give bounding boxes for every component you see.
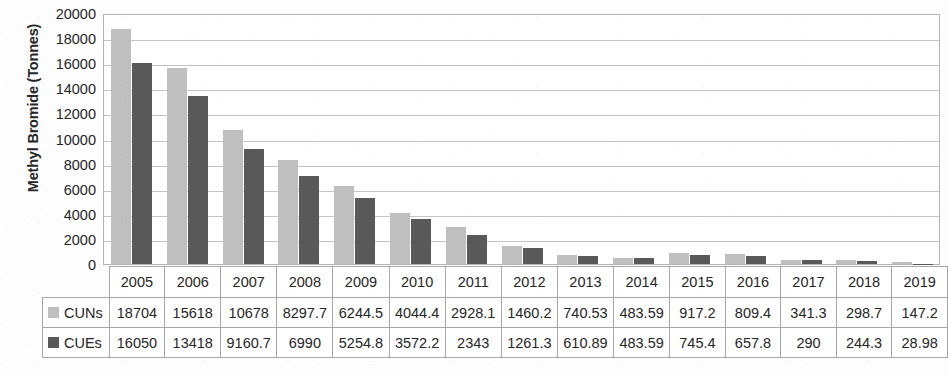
table-row: CUNs 1870415618106788297.76244.54044.429… xyxy=(43,298,948,328)
bar-group xyxy=(160,15,216,264)
table-cell-cuns-2019: 147.2 xyxy=(892,298,948,328)
bar-chart-figure: Methyl Bromide (Tonnes) 2000018000160001… xyxy=(0,0,948,377)
bar-cuns-2011 xyxy=(446,227,466,264)
bar-group xyxy=(495,15,551,264)
table-header-year: 2015 xyxy=(670,267,726,298)
table-row-years: 2005200620072008200920102011201220132014… xyxy=(43,267,948,298)
table-cell-cues-2009: 5254.8 xyxy=(333,328,389,358)
bar-cues-2015 xyxy=(690,255,710,264)
table-cell-cues-2015: 745.4 xyxy=(670,328,726,358)
bar-group xyxy=(662,15,718,264)
table-cell-cues-2010: 3572.2 xyxy=(389,328,445,358)
table-cell-cuns-2007: 10678 xyxy=(221,298,277,328)
table-header-year: 2016 xyxy=(725,267,781,298)
table-cell-cues-2007: 9160.7 xyxy=(221,328,277,358)
table-cell-cuns-2013: 740.53 xyxy=(557,298,613,328)
bar-cues-2016 xyxy=(746,256,766,264)
table-cell-cuns-2016: 809.4 xyxy=(725,298,781,328)
table-corner-cell xyxy=(43,267,110,298)
bar-cuns-2016 xyxy=(725,254,745,264)
bar-cues-2010 xyxy=(411,219,431,264)
bar-group xyxy=(327,15,383,264)
bar-cues-2012 xyxy=(523,248,543,264)
bar-cuns-2012 xyxy=(502,246,522,264)
table-header-year: 2019 xyxy=(892,267,948,298)
bars-layer xyxy=(104,15,939,264)
bar-group xyxy=(829,15,885,264)
bar-cues-2014 xyxy=(634,258,654,264)
table-header-year: 2011 xyxy=(445,267,501,298)
table-cell-cues-2005: 16050 xyxy=(109,328,165,358)
legend-label-cues: CUEs xyxy=(64,335,102,351)
table-header-year: 2013 xyxy=(557,267,613,298)
table-cell-cues-2008: 6990 xyxy=(277,328,333,358)
bar-group xyxy=(550,15,606,264)
bar-cues-2006 xyxy=(188,96,208,264)
bar-group xyxy=(216,15,272,264)
bar-cuns-2010 xyxy=(390,213,410,264)
legend-item-cuns: CUNs xyxy=(43,298,110,328)
bar-cuns-2015 xyxy=(669,253,689,265)
bar-group xyxy=(104,15,160,264)
y-tick-label: 8000 xyxy=(36,157,96,173)
bar-cuns-2019 xyxy=(892,262,912,264)
y-tick-label: 2000 xyxy=(36,232,96,248)
bar-cues-2005 xyxy=(132,63,152,264)
bar-cuns-2008 xyxy=(278,160,298,264)
y-tick-label: 16000 xyxy=(36,56,96,72)
bar-cuns-2014 xyxy=(613,258,633,264)
bar-cues-2007 xyxy=(244,149,264,264)
bar-group xyxy=(383,15,439,264)
table-header-year: 2006 xyxy=(165,267,221,298)
bar-cues-2018 xyxy=(857,261,877,264)
table-cell-cues-2012: 1261.3 xyxy=(501,328,557,358)
table-cell-cues-2011: 2343 xyxy=(445,328,501,358)
table-header-year: 2018 xyxy=(836,267,892,298)
table-cell-cuns-2018: 298.7 xyxy=(836,298,892,328)
table-row: CUEs 16050134189160.769905254.83572.2234… xyxy=(43,328,948,358)
bar-group xyxy=(439,15,495,264)
table-cell-cuns-2006: 15618 xyxy=(165,298,221,328)
bar-cuns-2013 xyxy=(557,255,577,264)
y-tick-label: 18000 xyxy=(36,31,96,47)
bar-group xyxy=(606,15,662,264)
bar-cues-2009 xyxy=(355,198,375,264)
table-cell-cuns-2014: 483.59 xyxy=(614,298,670,328)
bar-cuns-2009 xyxy=(334,186,354,264)
y-tick-label: 20000 xyxy=(36,6,96,22)
table-cell-cues-2016: 657.8 xyxy=(725,328,781,358)
y-tick-label: 10000 xyxy=(36,132,96,148)
table-header-year: 2005 xyxy=(109,267,165,298)
y-tick-label: 14000 xyxy=(36,81,96,97)
table-cell-cuns-2015: 917.2 xyxy=(670,298,726,328)
bar-group xyxy=(718,15,774,264)
bar-cues-2017 xyxy=(802,260,822,264)
table-cell-cuns-2011: 2928.1 xyxy=(445,298,501,328)
table-cell-cues-2018: 244.3 xyxy=(836,328,892,358)
y-tick-label: 4000 xyxy=(36,207,96,223)
bar-cues-2008 xyxy=(299,176,319,264)
table-cell-cues-2017: 290 xyxy=(781,328,837,358)
bar-cues-2011 xyxy=(467,235,487,264)
bar-cuns-2018 xyxy=(836,260,856,264)
table-cell-cuns-2005: 18704 xyxy=(109,298,165,328)
table-cell-cuns-2010: 4044.4 xyxy=(389,298,445,328)
bar-cues-2019 xyxy=(913,264,933,265)
table-cell-cuns-2012: 1460.2 xyxy=(501,298,557,328)
bar-group xyxy=(271,15,327,264)
table-cell-cues-2006: 13418 xyxy=(165,328,221,358)
table-header-year: 2014 xyxy=(614,267,670,298)
plot-area xyxy=(103,14,940,265)
table-header-year: 2017 xyxy=(781,267,837,298)
table-cell-cuns-2009: 6244.5 xyxy=(333,298,389,328)
table-header-year: 2007 xyxy=(221,267,277,298)
table-header-year: 2008 xyxy=(277,267,333,298)
bar-cuns-2005 xyxy=(111,29,131,264)
bar-group xyxy=(774,15,830,264)
table-header-year: 2009 xyxy=(333,267,389,298)
y-tick-label: 6000 xyxy=(36,182,96,198)
bar-cuns-2006 xyxy=(167,68,187,264)
table-cell-cuns-2017: 341.3 xyxy=(781,298,837,328)
table-cell-cues-2019: 28.98 xyxy=(892,328,948,358)
legend-swatch-cuns-icon xyxy=(48,307,59,318)
